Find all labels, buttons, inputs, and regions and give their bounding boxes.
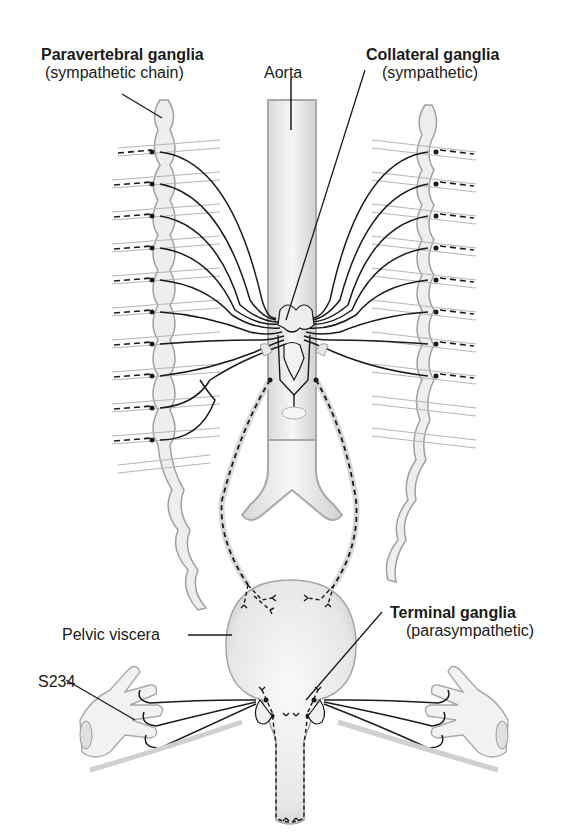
paravertebral-subtitle: (sympathetic chain) [41, 64, 204, 82]
pelvic-viscera-title: Pelvic viscera [62, 626, 160, 644]
collateral-subtitle: (sympathetic) [366, 64, 499, 82]
terminal-title: Terminal ganglia [390, 604, 534, 622]
left-sacral-plexus [66, 666, 256, 770]
autonomic-ganglia-diagram [0, 0, 588, 833]
sacral-label: S234 [38, 673, 75, 691]
collateral-ganglia-label: Collateral ganglia (sympathetic) [366, 46, 499, 82]
pelvic-viscera-label: Pelvic viscera [62, 626, 160, 644]
terminal-subtitle: (parasympathetic) [390, 622, 534, 640]
aorta-label: Aorta [264, 64, 302, 82]
right-splanchnic-nerves [304, 152, 428, 376]
pelvic-viscera [226, 580, 356, 824]
sacral-title: S234 [38, 673, 75, 691]
aorta-title: Aorta [264, 64, 302, 82]
paravertebral-ganglia-label: Paravertebral ganglia (sympathetic chain… [41, 46, 204, 82]
paravertebral-title: Paravertebral ganglia [41, 46, 204, 64]
terminal-ganglia-label: Terminal ganglia (parasympathetic) [390, 604, 534, 640]
right-sacral-plexus [324, 666, 508, 770]
collateral-title: Collateral ganglia [366, 46, 499, 64]
